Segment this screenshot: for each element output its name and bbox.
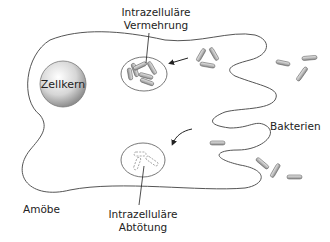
external-bacteria xyxy=(255,55,317,179)
amoeba-label: Amöbe xyxy=(23,203,60,215)
killing-label-line2: Abtötung xyxy=(119,221,167,233)
engulfed-bacterium xyxy=(210,141,225,145)
amoeba-diagram: Zellkern xyxy=(0,0,330,242)
replication-label-line1: Intrazelluläre xyxy=(122,6,191,18)
nucleus: Zellkern xyxy=(40,61,86,107)
nucleus-label: Zellkern xyxy=(41,78,85,91)
killing-label-line1: Intrazelluläre xyxy=(109,208,178,220)
replication-vacuole xyxy=(121,57,167,91)
bacteria-label: Bakterien xyxy=(270,120,321,132)
replication-label-line2: Vermehrung xyxy=(124,19,189,31)
